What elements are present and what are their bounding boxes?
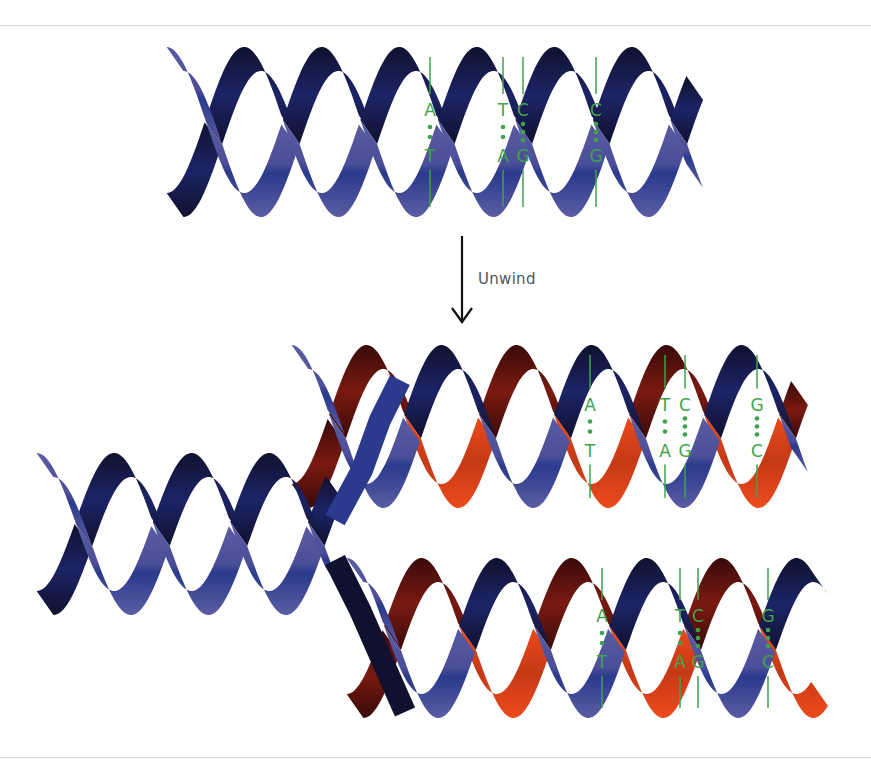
hydrogen-bond-dot [683,424,688,429]
base-letter: G [750,395,763,415]
hydrogen-bond-dot [521,138,526,143]
hydrogen-bond-dot [594,130,599,135]
hydrogen-bond-dot [428,125,433,130]
base-letter: T [659,395,671,415]
hydrogen-bond-dot [501,135,506,140]
hydrogen-bond-dot [501,125,506,130]
hydrogen-bond-dot [594,122,599,127]
base-letter: A [674,652,686,672]
hydrogen-bond-dot [521,122,526,127]
parent-strand-segment [167,47,222,142]
base-letter: A [424,100,436,120]
base-letter: G [516,146,529,166]
unwound-parent-helix [37,453,343,615]
base-letter: T [584,441,596,461]
base-letter: C [762,652,774,672]
hydrogen-bond-dot [678,631,683,636]
base-letter: G [761,606,774,626]
hydrogen-bond-dot [678,641,683,646]
base-letter: C [517,100,529,120]
hydrogen-bond-dot [588,429,593,434]
base-letter: A [659,441,671,461]
base-letter: T [497,100,509,120]
hydrogen-bond-dot [696,636,701,641]
base-letter: C [679,395,691,415]
hydrogen-bond-dot [696,628,701,633]
hydrogen-bond-dot [755,416,760,421]
hydrogen-bond-dot [755,424,760,429]
dna-unwinding-diagram: ATTACGCGATTACGGCATTACGGC [0,0,871,769]
hydrogen-bond-dot [696,644,701,649]
hydrogen-bond-dot [428,135,433,140]
parent-helix [167,47,704,217]
base-letter: C [590,100,602,120]
base-letter: G [589,146,602,166]
parent-strand-segment [292,345,345,434]
base-letter: C [692,606,704,626]
hydrogen-bond-dot [600,641,605,646]
base-letter: T [596,652,608,672]
hydrogen-bond-dot [766,644,771,649]
hydrogen-bond-dot [588,419,593,424]
hydrogen-bond-dot [766,636,771,641]
base-letter: C [751,441,763,461]
daughter-helix-lower [347,558,828,718]
base-letter: G [691,652,704,672]
hydrogen-bond-dot [683,432,688,437]
hydrogen-bond-dot [594,138,599,143]
hydrogen-bond-dot [663,419,668,424]
parent-strand-segment [37,453,92,544]
unwind-arrow [452,236,472,322]
base-letter: G [678,441,691,461]
hydrogen-bond-dot [600,631,605,636]
hydrogen-bond-dot [755,432,760,437]
base-letter: A [497,146,509,166]
base-letter: T [424,146,436,166]
hydrogen-bond-dot [683,416,688,421]
base-letter: T [674,606,686,626]
base-letter: A [596,606,608,626]
hydrogen-bond-dot [766,628,771,633]
hydrogen-bond-dot [663,429,668,434]
unwind-label: Unwind [478,270,536,288]
base-letter: A [584,395,596,415]
hydrogen-bond-dot [521,130,526,135]
